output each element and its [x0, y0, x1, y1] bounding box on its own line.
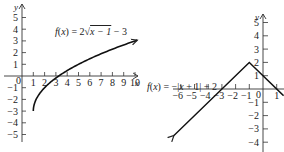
y-tick-label: −1	[7, 82, 18, 93]
y-tick-label: 4	[13, 24, 18, 35]
y-tick-label: 4	[254, 30, 259, 41]
y-tick-label: 1	[13, 59, 18, 70]
y-tick-label: −3	[248, 123, 259, 134]
y-tick-label: −3	[7, 106, 18, 117]
y-tick-label: −2	[248, 110, 259, 121]
x-tick-label: 10	[130, 77, 140, 88]
svg-text:f(x) = 2√x − 1 − 3: f(x) = 2√x − 1 − 3	[55, 26, 127, 38]
x-tick-label: 9	[121, 77, 126, 88]
y-tick-label: −1	[248, 97, 259, 108]
y-tick-label: −2	[7, 94, 18, 105]
function-formula: f(x) = −|x + 1| + 2	[147, 81, 217, 93]
x-tick-label: 7	[99, 77, 104, 88]
y-tick-label: 5	[254, 17, 259, 28]
chart-sqrt-function: x y 0 12345678910 54321−1−2−3−4−5 f(x) =…	[4, 2, 140, 142]
x-tick-label: 5	[76, 77, 81, 88]
y-ticks: 54321−1−2−3−4	[248, 17, 268, 148]
x-tick-label: 4	[65, 77, 70, 88]
y-axis-label: y	[13, 2, 18, 12]
y-tick-label: 2	[254, 57, 259, 68]
y-tick-label: −5	[7, 129, 18, 140]
y-tick-label: 2	[13, 47, 18, 58]
figure: x y 0 12345678910 54321−1−2−3−4−5 f(x) =…	[0, 0, 284, 152]
y-tick-label: 3	[254, 44, 259, 55]
y-tick-label: −4	[7, 117, 18, 128]
x-tick-label: −2	[227, 90, 238, 101]
chart-abs-function: y 0 −6−5−4−3−2−11 54321−1−2−3−4 f(x) = −…	[147, 12, 284, 152]
x-tick-label: 1	[31, 77, 36, 88]
x-tick-label: 6	[87, 77, 92, 88]
x-tick-label: 8	[110, 77, 115, 88]
y-tick-label: 3	[13, 35, 18, 46]
function-formula: f(x) = 2√x − 1 − 3	[55, 26, 127, 38]
y-tick-label: −4	[248, 137, 259, 148]
y-tick-label: 5	[13, 12, 18, 23]
